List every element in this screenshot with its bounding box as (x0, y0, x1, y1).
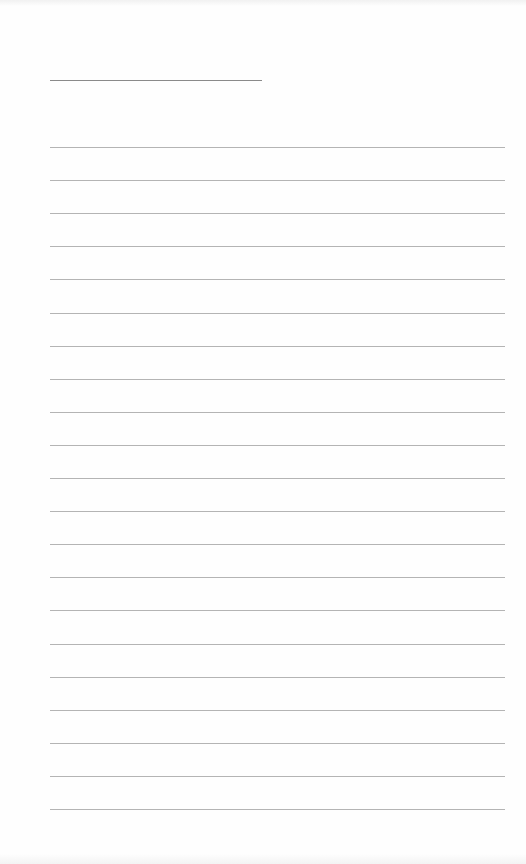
ruled-line (50, 809, 505, 810)
ruled-line (50, 445, 505, 446)
ruled-line (50, 246, 505, 247)
ruled-line (50, 743, 505, 744)
ruled-line (50, 412, 505, 413)
ruled-line (50, 346, 505, 347)
ruled-line (50, 776, 505, 777)
ruled-line (50, 511, 505, 512)
ruled-line (50, 313, 505, 314)
ruled-line (50, 710, 505, 711)
ruled-line (50, 610, 505, 611)
ruled-line (50, 379, 505, 380)
ruled-line (50, 279, 505, 280)
lined-paper-sheet (0, 0, 526, 864)
ruled-line (50, 577, 505, 578)
ruled-line (50, 644, 505, 645)
ruled-line (50, 147, 505, 148)
ruled-line (50, 677, 505, 678)
ruled-line (50, 180, 505, 181)
ruled-line (50, 213, 505, 214)
ruled-line (50, 544, 505, 545)
ruled-line (50, 478, 505, 479)
title-rule (50, 80, 262, 81)
bottom-edge-shadow (0, 854, 526, 864)
top-edge-shadow (0, 0, 526, 6)
